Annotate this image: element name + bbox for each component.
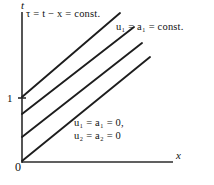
annotation-zero-region: u₁ = a₁ = 0, u₂ = a₂ = 0 — [74, 118, 124, 143]
characteristic-line-1 — [22, 13, 120, 97]
characteristic-line-2 — [22, 27, 134, 114]
annotation-tau-const: τ = t − x = const. — [26, 9, 100, 20]
annotation-u1-const: u₁ = a₁ = const. — [116, 22, 184, 33]
annotation-zero-region-line-2: u₂ = a₂ = 0 — [74, 131, 124, 142]
y-axis-label: t — [21, 0, 24, 11]
y-axis-tick-label-1: 1 — [7, 93, 13, 104]
origin-label: 0 — [15, 161, 21, 173]
x-axis-label: x — [176, 150, 181, 161]
annotation-zero-region-line-1: u₁ = a₁ = 0, — [74, 118, 124, 129]
figure-caption — [0, 176, 214, 185]
figure-container: t x 1 0 τ = t − x = const. u₁ = a₁ = con… — [0, 0, 214, 185]
characteristic-line-4 — [22, 57, 150, 161]
